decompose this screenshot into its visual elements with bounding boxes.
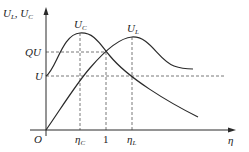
x-axis-label: η [228,134,233,146]
x-axis-arrow-icon [228,128,236,133]
uc-curve [46,33,198,117]
eta-c-tick-label: ηC [75,133,85,147]
u-tick-label: U [35,70,44,82]
qu-tick-label: QU [25,46,42,58]
y-axis-label: UL, UC [3,7,33,21]
uc-curve-label: UC [74,18,87,32]
resonance-curves-diagram: UL, UC QU U O ηC 1 ηL η UC UL [0,0,249,152]
y-axis-arrow-icon [44,7,49,15]
eta-one-tick-label: 1 [103,133,109,145]
ul-curve [46,37,193,130]
guide-lines [46,33,226,130]
eta-l-tick-label: ηL [127,133,136,147]
ul-curve-label: UL [127,22,139,36]
origin-label: O [34,133,42,145]
